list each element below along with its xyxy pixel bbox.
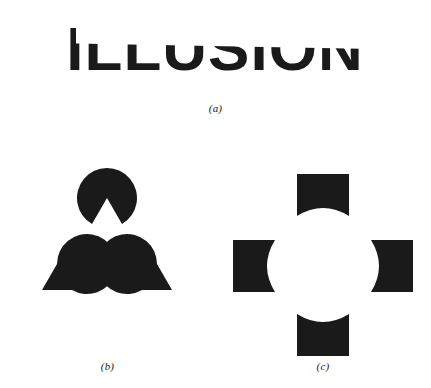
illusory-contours-figure: ILLUSION (a) (b) (c) xyxy=(0,0,431,388)
illusion-word-artwork: ILLUSION xyxy=(0,0,431,100)
illusion-word-text: ILLUSION xyxy=(66,14,363,83)
kanizsa-inducer-bottom-right xyxy=(97,234,172,294)
panel-c-caption: (c) xyxy=(215,360,431,372)
panel-b-caption: (b) xyxy=(0,360,215,372)
panel-c-illusory-circle: (c) xyxy=(215,160,431,388)
panel-a-illusion-word: ILLUSION (a) xyxy=(0,0,431,130)
kanizsa-triangle-artwork xyxy=(0,160,215,360)
circle-inducer-right xyxy=(371,240,413,292)
circle-inducer-top xyxy=(297,174,349,216)
illusory-circle-artwork xyxy=(215,160,431,360)
illusion-word-glyphs: ILLUSION xyxy=(66,14,363,83)
panel-a-caption: (a) xyxy=(0,102,431,114)
circle-inducer-bottom xyxy=(297,314,349,356)
panel-b-kanizsa-triangle: (b) xyxy=(0,160,215,388)
kanizsa-inducer-top xyxy=(77,168,137,224)
circle-inducer-left xyxy=(233,240,275,292)
